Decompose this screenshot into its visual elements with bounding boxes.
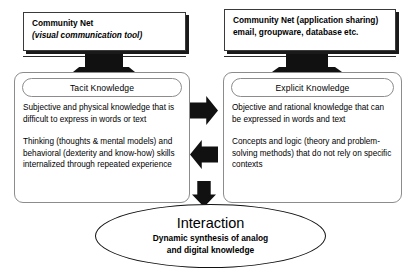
monitor-line-2: email, groupware, database etc. xyxy=(233,27,389,39)
panel-paragraph: Thinking (thoughts & mental models) and … xyxy=(23,136,183,171)
panel-title-label: Explicit Knowledge xyxy=(276,83,350,93)
panel-title-explicit: Explicit Knowledge xyxy=(231,78,394,97)
monitor-line-1: Community Net (application sharing) xyxy=(233,15,389,27)
panel-title-tacit: Tacit Knowledge xyxy=(22,78,182,97)
panel-body-explicit: Objective and rational knowledge that ca… xyxy=(232,102,395,171)
monitor-screen-text: Community Net (visual communication tool… xyxy=(24,13,185,47)
arrow-left-icon xyxy=(190,140,218,169)
monitor-line-1: Community Net xyxy=(32,18,179,30)
panel-title-label: Tacit Knowledge xyxy=(70,83,134,93)
monitor-line-2: (visual communication tool) xyxy=(32,30,179,42)
monitor-neck xyxy=(286,54,328,67)
monitor-neck xyxy=(85,54,123,67)
panel-tacit-knowledge: Tacit Knowledge Subjective and physical … xyxy=(14,72,190,203)
monitor-community-net-apps: Community Net (application sharing) emai… xyxy=(224,9,396,75)
interaction-title: Interaction xyxy=(177,215,245,232)
panel-explicit-knowledge: Explicit Knowledge Objective and rationa… xyxy=(223,72,402,203)
interaction-subtitle-line-2: and digital knowledge xyxy=(167,245,254,257)
panel-paragraph: Objective and rational knowledge that ca… xyxy=(232,102,395,125)
interaction-ellipse: Interaction Dynamic synthesis of analog … xyxy=(95,204,326,268)
monitor-screen: Community Net (visual communication tool… xyxy=(23,12,186,51)
monitor-screen-text: Community Net (application sharing) emai… xyxy=(225,10,395,44)
arrow-right-icon xyxy=(190,96,218,125)
monitor-screen: Community Net (application sharing) emai… xyxy=(224,9,396,51)
panel-body-tacit: Subjective and physical knowledge that i… xyxy=(23,102,183,171)
interaction-subtitle-line-1: Dynamic synthesis of analog xyxy=(153,233,268,245)
diagram-canvas: Community Net (visual communication tool… xyxy=(0,0,414,277)
monitor-community-net-visual: Community Net (visual communication tool… xyxy=(23,12,186,74)
panel-paragraph: Concepts and logic (theory and problem-s… xyxy=(232,136,395,171)
panel-paragraph: Subjective and physical knowledge that i… xyxy=(23,102,183,125)
